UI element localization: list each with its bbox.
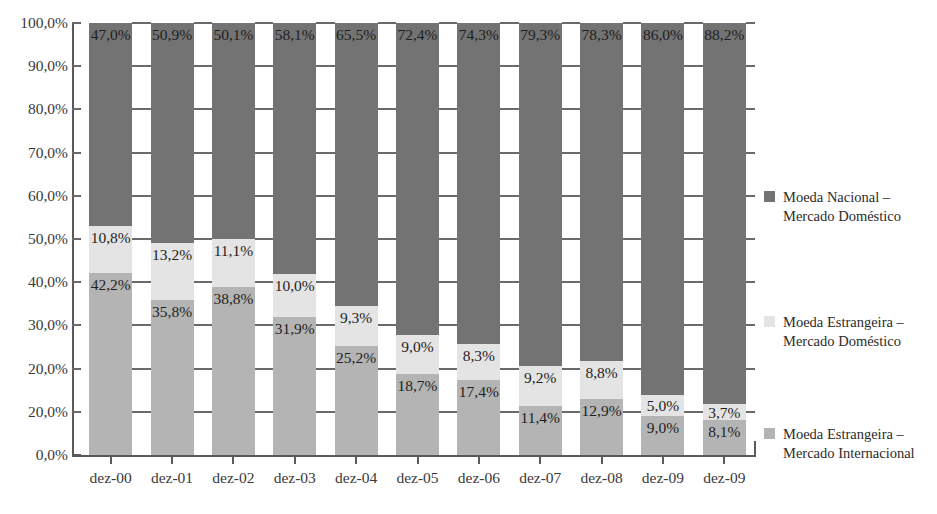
bar-segment[interactable]: 18,7% [396,374,439,455]
legend-label: Moeda Estrangeira –Mercado Internacional [783,425,937,462]
bar-value-label: 47,0% [89,27,132,43]
bar-segment[interactable]: 78,3% [580,23,623,361]
bar-segment[interactable]: 13,2% [151,243,194,300]
bar-column[interactable]: 42,2%10,8%47,0% [89,23,132,455]
bar-column[interactable]: 17,4%8,3%74,3% [457,23,500,455]
bar-value-label: 42,2% [89,277,132,293]
bar-segment[interactable]: 47,0% [89,23,132,226]
bar-value-label: 25,2% [335,350,378,366]
x-axis-line [72,455,756,457]
bar-column[interactable]: 9,0%5,0%86,0% [641,23,684,455]
bar-segment[interactable]: 65,5% [335,23,378,306]
bar-value-label: 11,4% [519,410,562,426]
bar-segment[interactable]: 25,2% [335,346,378,455]
x-axis-tick [417,455,419,464]
x-axis-tick [478,455,480,464]
bar-value-label: 88,2% [703,27,746,43]
y-axis-tick-label: 70,0% [2,145,68,161]
bar-column[interactable]: 38,8%11,1%50,1% [212,23,255,455]
gridline-segment [72,22,80,24]
legend-label-line-2: Mercado Internacional [783,444,937,463]
bar-segment[interactable]: 9,3% [335,306,378,346]
bar-value-label: 78,3% [580,27,623,43]
legend-label: Moeda Nacional –Mercado Doméstico [783,188,937,225]
bar-value-label: 9,0% [641,420,684,436]
gridline-segment [72,281,80,283]
y-axis-tick-label: 30,0% [2,317,68,333]
bar-segment[interactable]: 72,4% [396,23,439,336]
bar-segment[interactable]: 8,3% [457,344,500,380]
bar-value-label: 72,4% [396,27,439,43]
x-axis-tick [601,455,603,464]
bar-segment[interactable]: 9,0% [396,335,439,374]
bar-segment[interactable]: 58,1% [273,23,316,274]
bar-segment[interactable]: 5,0% [641,395,684,417]
bar-segment[interactable]: 10,0% [273,274,316,317]
bar-value-label: 9,0% [396,339,439,355]
bar-segment[interactable]: 9,0% [641,416,684,455]
y-axis-tick-label: 60,0% [2,188,68,204]
bar-segment[interactable]: 3,7% [703,404,746,420]
bar-value-label: 10,0% [273,278,316,294]
bar-value-label: 74,3% [457,27,500,43]
legend-color-swatch [764,191,775,202]
legend-label-line-1: Moeda Estrangeira – [783,313,937,332]
y-axis-tick-label: 0,0% [2,447,68,463]
y-axis-tick-label: 20,0% [2,404,68,420]
bar-segment[interactable]: 11,1% [212,239,255,287]
bar-column[interactable]: 11,4%9,2%79,3% [519,23,562,455]
bar-segment[interactable]: 35,8% [151,300,194,455]
bar-value-label: 5,0% [641,398,684,414]
x-axis-tick [723,455,725,464]
bar-value-label: 11,1% [212,243,255,259]
bar-value-label: 10,8% [89,230,132,246]
bar-value-label: 31,9% [273,321,316,337]
gridline-segment [72,108,80,110]
bar-segment[interactable]: 79,3% [519,23,562,366]
gridline-segment [72,238,80,240]
legend-label-line-2: Mercado Doméstico [783,332,937,351]
bar-value-label: 18,7% [396,378,439,394]
bar-value-label: 9,3% [335,310,378,326]
bar-column[interactable]: 25,2%9,3%65,5% [335,23,378,455]
bar-segment[interactable]: 11,4% [519,406,562,455]
bar-column[interactable]: 12,9%8,8%78,3% [580,23,623,455]
bar-column[interactable]: 18,7%9,0%72,4% [396,23,439,455]
bar-value-label: 50,1% [212,27,255,43]
legend-label: Moeda Estrangeira –Mercado Doméstico [783,313,937,350]
bar-value-label: 58,1% [273,27,316,43]
bar-segment[interactable]: 74,3% [457,23,500,344]
bar-segment[interactable]: 86,0% [641,23,684,395]
bar-segment[interactable]: 9,2% [519,366,562,406]
stacked-bar-chart: 100,0%90,0%80,0%70,0%60,0%50,0%40,0%30,0… [0,0,937,514]
bar-value-label: 8,1% [703,424,746,440]
bar-segment[interactable]: 38,8% [212,287,255,455]
y-axis-tick-label: 40,0% [2,274,68,290]
bar-value-label: 12,9% [580,403,623,419]
bar-segment[interactable]: 31,9% [273,317,316,455]
bar-segment[interactable]: 42,2% [89,273,132,455]
bar-column[interactable]: 35,8%13,2%50,9% [151,23,194,455]
bar-value-label: 17,4% [457,384,500,400]
bar-value-label: 38,8% [212,291,255,307]
bar-segment[interactable]: 17,4% [457,380,500,455]
gridline-segment [72,195,80,197]
y-axis-tick-label: 100,0% [2,15,68,31]
bar-segment[interactable]: 50,9% [151,23,194,243]
bar-value-label: 8,3% [457,348,500,364]
bar-column[interactable]: 8,1%3,7%88,2% [703,23,746,455]
bar-segment[interactable]: 88,2% [703,23,746,404]
bar-column[interactable]: 31,9%10,0%58,1% [273,23,316,455]
bar-segment[interactable]: 12,9% [580,399,623,455]
x-axis-tick [294,455,296,464]
gridline-segment [72,368,80,370]
bar-value-label: 13,2% [151,247,194,263]
bar-value-label: 50,9% [151,27,194,43]
x-axis-tick [232,455,234,464]
bar-segment[interactable]: 8,1% [703,420,746,455]
bar-segment[interactable]: 50,1% [212,23,255,239]
bar-segment[interactable]: 10,8% [89,226,132,273]
x-axis-tick [110,455,112,464]
bar-segment[interactable]: 8,8% [580,361,623,399]
bar-value-label: 65,5% [335,27,378,43]
